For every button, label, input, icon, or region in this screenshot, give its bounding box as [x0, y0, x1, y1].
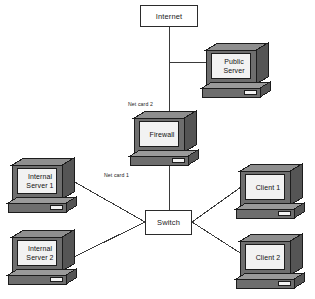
node-switch[interactable]: Switch: [145, 210, 192, 235]
computer-icon: [4, 156, 80, 214]
computer-icon: [232, 162, 308, 220]
network-diagram-canvas: InternetSwitch Public Server: [0, 0, 315, 299]
caption-net-card-2: Net card 2: [128, 101, 153, 107]
computer-icon: [126, 109, 202, 167]
node-label: Internet: [156, 12, 183, 21]
node-label: Switch: [157, 218, 180, 227]
computer-client-2[interactable]: Client 2: [232, 232, 308, 290]
computer-public-server[interactable]: Public Server: [198, 41, 274, 99]
caption-net-card-1: Net card 1: [104, 172, 129, 178]
computer-icon: [232, 232, 308, 290]
computer-firewall[interactable]: Firewall: [126, 109, 202, 167]
computer-internal-server-2[interactable]: Internal Server 2: [4, 228, 80, 286]
computer-client-1[interactable]: Client 1: [232, 162, 308, 220]
computer-icon: [198, 41, 274, 99]
connection-switch-to-isrv2: [72, 222, 145, 258]
node-internet[interactable]: Internet: [140, 5, 198, 27]
computer-internal-server-1[interactable]: Internal Server 1: [4, 156, 80, 214]
computer-icon: [4, 228, 80, 286]
